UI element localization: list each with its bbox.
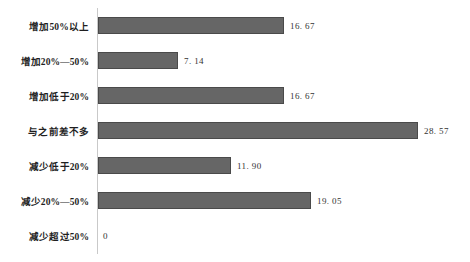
bar-value-label: 16. 67 [290,91,315,101]
category-label: 增加50%以上 [0,8,89,43]
chart-row: 减少超过50% 0 [0,218,470,253]
bar[interactable] [98,192,311,209]
bar-value-label: 16. 67 [290,21,315,31]
bar-group: 16. 67 [98,8,315,43]
bar-value-label: 28. 57 [424,126,449,136]
bar-value-label: 7. 14 [184,56,204,66]
category-label: 减少低于20% [0,148,89,183]
bar-chart: 增加50%以上 16. 67 增加20%—50% 7. 14 增加低于20% 1… [0,0,470,262]
bar-value-label: 19. 05 [317,196,342,206]
category-label: 增加低于20% [0,78,89,113]
category-label: 与之前差不多 [0,113,89,148]
chart-row: 与之前差不多 28. 57 [0,113,470,148]
category-label: 减少20%—50% [0,183,89,218]
category-label: 增加20%—50% [0,43,89,78]
bar[interactable] [98,87,284,104]
bar-group: 7. 14 [98,43,204,78]
bar[interactable] [98,122,418,139]
chart-row: 增加20%—50% 7. 14 [0,43,470,78]
bar[interactable] [98,157,231,174]
chart-row: 增加低于20% 16. 67 [0,78,470,113]
bar[interactable] [98,52,178,69]
bar-group: 16. 67 [98,78,315,113]
chart-row: 减少低于20% 11. 90 [0,148,470,183]
bar-group: 0 [98,218,108,253]
bar-value-label: 11. 90 [237,161,262,171]
bar-group: 11. 90 [98,148,262,183]
chart-row: 增加50%以上 16. 67 [0,8,470,43]
bar-value-label: 0 [103,231,108,241]
chart-row: 减少20%—50% 19. 05 [0,183,470,218]
bar-group: 19. 05 [98,183,342,218]
bar-group: 28. 57 [98,113,449,148]
bar[interactable] [98,17,284,34]
plot-area: 增加50%以上 16. 67 增加20%—50% 7. 14 增加低于20% 1… [0,0,470,262]
category-label: 减少超过50% [0,218,89,253]
